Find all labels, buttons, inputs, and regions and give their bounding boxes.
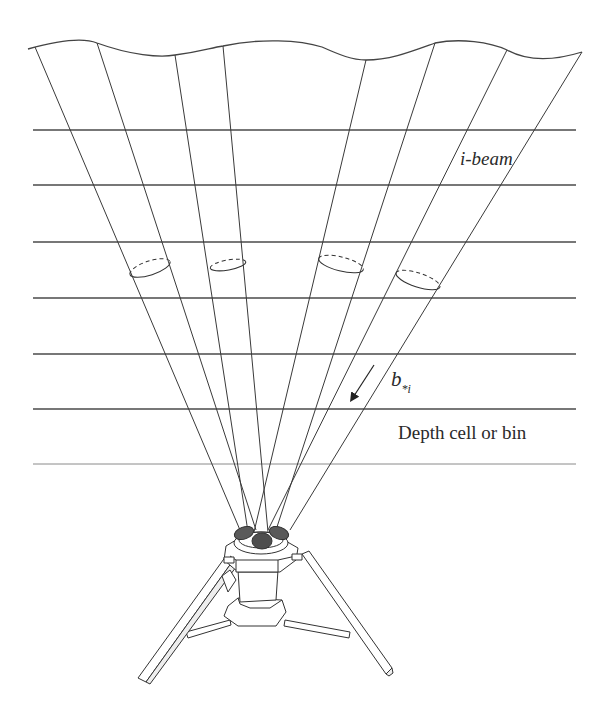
tripod-left-leg bbox=[138, 556, 232, 682]
beam-edge bbox=[223, 46, 268, 532]
instrument-body bbox=[238, 570, 278, 602]
base-plate bbox=[224, 598, 286, 626]
beam-label: i-beam bbox=[460, 148, 513, 170]
beam-edge bbox=[97, 43, 256, 530]
velocity-arrow bbox=[352, 365, 374, 399]
beam-edge bbox=[35, 47, 240, 530]
adcp-instrument bbox=[138, 524, 393, 684]
velocity-symbol: b bbox=[391, 367, 402, 391]
beam-edge bbox=[175, 55, 248, 532]
beam-edge bbox=[268, 50, 507, 530]
beam-cross-section bbox=[317, 252, 365, 277]
depth-cell-label: Depth cell or bin bbox=[398, 422, 526, 444]
beam-cross-section bbox=[128, 255, 172, 281]
beam-cross-section bbox=[209, 257, 246, 273]
adcp-diagram bbox=[0, 0, 609, 715]
velocity-subscript: *i bbox=[402, 382, 411, 396]
transducer-face-center bbox=[252, 533, 272, 549]
beam-edge bbox=[254, 60, 366, 532]
beam-edge bbox=[290, 52, 582, 530]
beam-edge bbox=[276, 43, 435, 530]
tripod-right-leg bbox=[302, 551, 392, 674]
velocity-label: b*i bbox=[391, 367, 411, 395]
sea-surface bbox=[28, 40, 582, 60]
depth-cell-lines bbox=[33, 130, 576, 464]
beam-cross-sections bbox=[128, 252, 442, 294]
acoustic-beams bbox=[35, 43, 582, 532]
beam-cross-section bbox=[394, 266, 442, 294]
